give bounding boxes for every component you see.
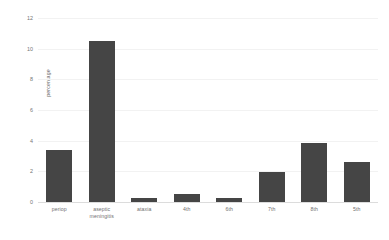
- x-axis-label: 8th: [293, 206, 336, 220]
- bar[interactable]: [344, 162, 370, 202]
- y-tick-label-12: 12: [27, 15, 33, 21]
- x-axis-labels: periopaseptic meningitisataxia4th6th7th8…: [38, 206, 378, 220]
- bar[interactable]: [89, 41, 115, 202]
- x-axis-label: 6th: [208, 206, 251, 220]
- y-tick-label-0: 0: [30, 199, 33, 205]
- bar-slot: [38, 18, 81, 202]
- bar[interactable]: [174, 194, 200, 202]
- bar-slot: [166, 18, 209, 202]
- x-axis-label: 4th: [166, 206, 209, 220]
- bars-layer: [38, 18, 378, 202]
- x-axis-label: aseptic meningitis: [81, 206, 124, 220]
- plot-area: percentage 024681012: [38, 18, 378, 202]
- x-axis-label: periop: [38, 206, 81, 220]
- bar[interactable]: [46, 150, 72, 202]
- bar-slot: [251, 18, 294, 202]
- bar[interactable]: [216, 198, 242, 202]
- bar[interactable]: [131, 198, 157, 202]
- bar-slot: [208, 18, 251, 202]
- y-tick-label-4: 4: [30, 138, 33, 144]
- y-tick-label-10: 10: [27, 46, 33, 52]
- x-axis-label: ataxia: [123, 206, 166, 220]
- y-tick-label-2: 2: [30, 168, 33, 174]
- gridline-0: [38, 202, 378, 203]
- bar-slot: [336, 18, 379, 202]
- bar[interactable]: [301, 143, 327, 202]
- x-axis-label: 7th: [251, 206, 294, 220]
- bar-chart: percentage 024681012 periopaseptic menin…: [0, 0, 389, 240]
- bar-slot: [293, 18, 336, 202]
- bar-slot: [123, 18, 166, 202]
- bar-slot: [81, 18, 124, 202]
- bar[interactable]: [259, 172, 285, 202]
- x-axis-label: 5th: [336, 206, 379, 220]
- y-tick-label-8: 8: [30, 76, 33, 82]
- y-tick-label-6: 6: [30, 107, 33, 113]
